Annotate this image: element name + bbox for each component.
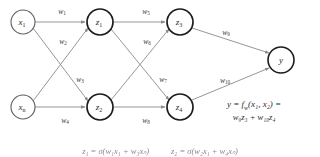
output-equation: y = fw(x₁, x₂) = w₉z₃ + w₁₀z₄ xyxy=(194,99,314,123)
neural-network-graph: x1 xn z1 z2 xyxy=(0,0,320,157)
weight-label-w4: w4 xyxy=(61,116,69,126)
node-y[interactable]: y xyxy=(268,47,294,73)
weight-label-w6: w6 xyxy=(143,37,151,47)
eq-prefix: y = f xyxy=(227,99,244,109)
node-z3[interactable]: z3 xyxy=(167,9,193,35)
weight-label-w8: w8 xyxy=(142,116,150,126)
node-z2[interactable]: z2 xyxy=(87,94,113,120)
weight-label-w3: w3 xyxy=(76,75,84,85)
weight-label-w5: w5 xyxy=(142,7,150,17)
node-z1[interactable]: z1 xyxy=(87,9,113,35)
output-equation-line2: w₉z₃ + w₁₀z₄ xyxy=(194,112,314,123)
bottom-equation-z1: z₁ = σ(w₁x₁ + w₃xₙ) xyxy=(82,146,149,157)
edges-group xyxy=(33,22,269,107)
weight-label-w1: w1 xyxy=(58,7,66,17)
eq-args: (x₁, x₂) = xyxy=(248,99,281,109)
edge-z3-y xyxy=(192,28,269,53)
weight-label-w7: w7 xyxy=(159,75,167,85)
weight-label-w10: w10 xyxy=(220,76,231,86)
node-xn[interactable]: xn xyxy=(11,95,35,119)
bottom-equations-row: z₁ = σ(w₁x₁ + w₃xₙ) z₂ = σ(w₂x₁ + w₄xₙ) xyxy=(0,146,320,157)
node-x1[interactable]: x1 xyxy=(11,10,35,34)
node-z4[interactable]: z4 xyxy=(167,94,193,120)
diagram-canvas: x1 xn z1 z2 xyxy=(0,0,320,157)
bottom-equation-z2: z₂ = σ(w₂x₁ + w₄xₙ) xyxy=(171,146,238,157)
node-y-label: y xyxy=(278,55,283,65)
output-equation-line1: y = fw(x₁, x₂) = xyxy=(194,99,314,112)
weight-label-w2: w2 xyxy=(59,37,67,47)
weight-label-w9: w9 xyxy=(222,28,230,38)
edge-z4-y xyxy=(192,68,269,100)
